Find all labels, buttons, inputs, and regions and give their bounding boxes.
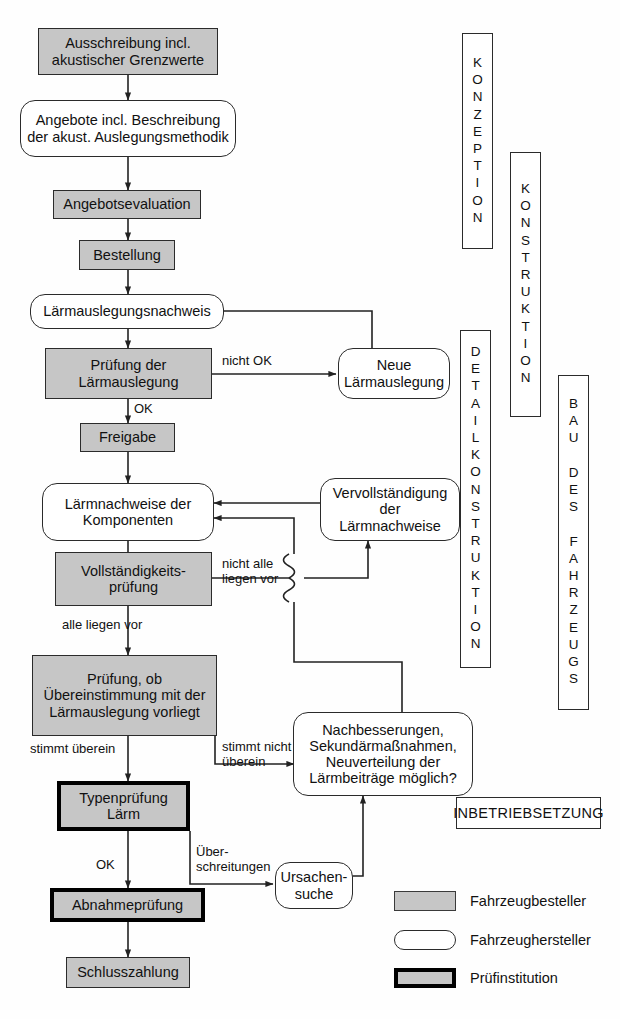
node-nachbesserungen[interactable]: Nachbesserungen, Sekundärmaßnahmen, Neuv…	[293, 712, 473, 796]
phase-label: DETAILKONSTRUKTION	[468, 344, 483, 654]
node-vervollstaendigung[interactable]: Vervollständigung der Lärmnachweise	[320, 478, 460, 541]
node-label: Lärmauslegungsnachweis	[40, 303, 214, 319]
legend-item-fahrzeugbesteller: Fahrzeugbesteller	[394, 891, 586, 911]
phase-detailkonstruktion: DETAILKONSTRUKTION	[460, 330, 491, 668]
node-pruefung-uebereinstimmung[interactable]: Prüfung, ob Übereinstimmung mit der Lärm…	[32, 655, 217, 736]
node-label: Typenprüfung Lärm	[76, 790, 171, 822]
edge-label-ok-1: OK	[134, 402, 153, 417]
node-schlusszahlung[interactable]: Schlusszahlung	[66, 957, 190, 988]
legend-item-fahrzeughersteller: Fahrzeughersteller	[394, 930, 591, 950]
node-label: Ursachen- suche	[278, 869, 351, 901]
node-label: Lärmnachweise der Komponenten	[62, 496, 195, 528]
edge-label-stimmt-ueberein: stimmt überein	[30, 742, 115, 757]
node-label: Bestellung	[90, 247, 164, 263]
phase-label: INBETRIEBSETZUNG	[453, 805, 604, 821]
phase-konzeption: KONZEPTION	[462, 33, 493, 249]
flowchart-diagram: Ausschreibung incl. akustischer Grenzwer…	[0, 0, 620, 1019]
legend-label: Fahrzeugbesteller	[470, 893, 586, 909]
edge-label-ueberschreitungen: Über- schreitungen	[196, 845, 270, 875]
node-vollstaendigkeitspruefung[interactable]: Vollständigkeits- prüfung	[55, 552, 212, 606]
phase-label: KONSTRUKTION	[518, 181, 533, 387]
node-label: Neue Lärmauslegung	[341, 357, 447, 389]
node-neue-laermauslegung[interactable]: Neue Lärmauslegung	[338, 348, 450, 399]
legend-label: Fahrzeughersteller	[470, 932, 591, 948]
node-ausschreibung[interactable]: Ausschreibung incl. akustischer Grenzwer…	[38, 28, 218, 75]
legend-swatch-institution	[394, 968, 456, 988]
node-angebote[interactable]: Angebote incl. Beschreibung der akust. A…	[20, 100, 236, 157]
node-angebotsevaluation[interactable]: Angebotsevaluation	[53, 190, 201, 219]
node-label: Schlusszahlung	[74, 964, 182, 980]
legend-swatch-maker	[394, 930, 456, 950]
edge-label-nicht-ok: nicht OK	[222, 354, 272, 369]
legend-swatch-orderer	[394, 891, 456, 911]
node-freigabe[interactable]: Freigabe	[80, 423, 175, 452]
node-label: Freigabe	[96, 429, 159, 445]
node-label: Angebotsevaluation	[60, 196, 193, 212]
node-typenpruefung-laerm[interactable]: Typenprüfung Lärm	[57, 781, 190, 831]
phase-label: BAU DES FAHRZEUGS	[566, 396, 581, 688]
legend-label: Prüfinstitution	[470, 970, 558, 986]
node-laermauslegungsnachweis[interactable]: Lärmauslegungsnachweis	[30, 294, 224, 329]
phase-label: KONZEPTION	[470, 55, 485, 227]
node-label: Ausschreibung incl. akustischer Grenzwer…	[49, 35, 207, 67]
node-label: Nachbesserungen, Sekundärmaßnahmen, Neuv…	[306, 722, 460, 787]
edge-label-nicht-alle: nicht alle liegen vor	[222, 557, 278, 587]
edge-label-alle-liegen-vor: alle liegen vor	[62, 618, 142, 633]
node-label: Vollständigkeits- prüfung	[78, 563, 189, 595]
phase-inbetriebsetzung: INBETRIEBSETZUNG	[456, 797, 601, 829]
node-laermnachweise-komponenten[interactable]: Lärmnachweise der Komponenten	[42, 483, 214, 541]
legend-item-pruefinstitution: Prüfinstitution	[394, 968, 558, 988]
phase-konstruktion: KONSTRUKTION	[510, 152, 541, 417]
edge-label-ok-2: OK	[96, 858, 115, 873]
node-ursachensuche[interactable]: Ursachen- suche	[275, 862, 353, 909]
node-abnahmepruefung[interactable]: Abnahmeprüfung	[50, 888, 205, 922]
phase-bau-des-fahrzeugs: BAU DES FAHRZEUGS	[558, 375, 589, 710]
node-label: Abnahmeprüfung	[69, 897, 186, 913]
node-label: Prüfung der Lärmauslegung	[76, 357, 182, 389]
node-label: Vervollständigung der Lärmnachweise	[330, 485, 450, 534]
node-label: Prüfung, ob Übereinstimmung mit der Lärm…	[41, 671, 209, 720]
node-bestellung[interactable]: Bestellung	[79, 240, 175, 270]
edge-label-stimmt-nicht-uebereim: stimmt nicht überein	[222, 740, 291, 770]
node-pruefung-der-laermauslegung[interactable]: Prüfung der Lärmauslegung	[45, 348, 212, 399]
node-label: Angebote incl. Beschreibung der akust. A…	[24, 112, 232, 144]
